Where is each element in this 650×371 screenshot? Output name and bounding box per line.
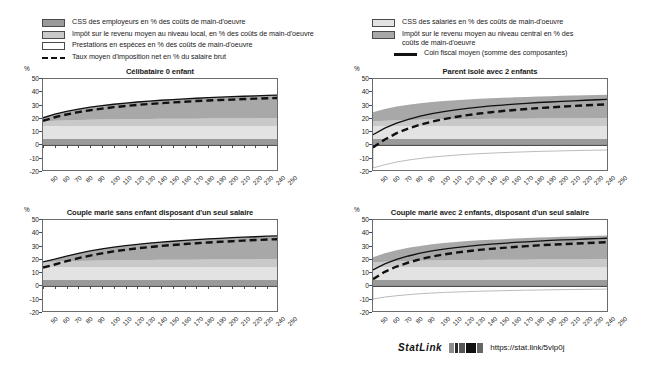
- x-axis-label: 60: [391, 315, 401, 325]
- x-axis-label: 150: [498, 315, 510, 327]
- y-axis-label: 20: [353, 255, 369, 262]
- y-axis-tick: [369, 312, 372, 313]
- y-axis-label: 10: [353, 269, 369, 276]
- y-axis-tick: [39, 246, 42, 247]
- x-axis-label: 70: [73, 174, 83, 184]
- x-axis-label: 110: [451, 174, 463, 186]
- y-axis-label: -10: [353, 154, 369, 161]
- legend-label: CSS des salariés en % des coûts de main-…: [402, 17, 563, 26]
- x-axis-label: 250: [616, 174, 628, 186]
- x-axis-label: 160: [180, 315, 192, 327]
- x-axis-label: 160: [510, 315, 522, 327]
- x-axis-label: 250: [286, 315, 298, 327]
- y-axis-tick: [369, 246, 372, 247]
- x-axis-label: 130: [144, 174, 156, 186]
- x-axis-label: 100: [109, 315, 121, 327]
- x-axis-label: 250: [616, 315, 628, 327]
- legend-label: Coin fiscal moyen (somme des composantes…: [424, 48, 567, 57]
- panel-title: Célibataire 0 enfant: [42, 67, 278, 76]
- x-axis-label: 130: [144, 315, 156, 327]
- legend-swatch-icon: [372, 19, 395, 27]
- x-axis-label: 200: [557, 315, 569, 327]
- x-axis-label: 190: [215, 315, 227, 327]
- x-axis-label: 140: [156, 315, 168, 327]
- legend-left: CSS des employeurs en % des coûts de mai…: [42, 17, 314, 63]
- y-axis-tick: [39, 144, 42, 145]
- legend-swatch-icon: [372, 31, 395, 39]
- x-axis-label: 240: [274, 174, 286, 186]
- y-axis-tick: [39, 131, 42, 132]
- y-axis-tick: [39, 118, 42, 119]
- y-axis-label: -20: [23, 309, 39, 316]
- series-canvas: [373, 79, 608, 171]
- x-axis-label: 130: [474, 174, 486, 186]
- legend-item: Coin fiscal moyen (somme des composantes…: [372, 48, 588, 58]
- x-axis-label: 90: [426, 174, 436, 184]
- legend-swatch-icon: [42, 19, 65, 27]
- solid-line-icon: [394, 50, 417, 58]
- x-axis-label: 70: [403, 315, 413, 325]
- legend-item: Impôt sur le revenu moyen au niveau loca…: [42, 29, 314, 39]
- y-axis-label: 10: [23, 269, 39, 276]
- x-axis-label: 80: [84, 174, 94, 184]
- y-axis-label: 10: [23, 128, 39, 135]
- y-axis-label: 30: [353, 242, 369, 249]
- panel-title: Parent isolé avec 2 enfants: [372, 67, 608, 76]
- y-axis-label: -20: [353, 168, 369, 175]
- y-axis-tick: [369, 259, 372, 260]
- x-axis-label: 50: [379, 174, 389, 184]
- legend-item: Taux moyen d'imposition net en % du sala…: [42, 52, 314, 62]
- x-axis-label: 180: [533, 315, 545, 327]
- y-axis-tick: [369, 158, 372, 159]
- x-axis-label: 50: [379, 315, 389, 325]
- area-series: [43, 280, 278, 287]
- plot-area: [372, 78, 608, 171]
- x-axis-label: 100: [439, 315, 451, 327]
- y-axis-label: 40: [23, 88, 39, 95]
- y-axis-label: 20: [23, 114, 39, 121]
- y-axis-label: 40: [23, 229, 39, 236]
- y-axis-label: -10: [353, 295, 369, 302]
- taxing-wages-figure: CSS des employeurs en % des coûts de mai…: [0, 0, 650, 371]
- barcode-icon: [449, 343, 483, 353]
- x-axis-label: 220: [251, 174, 263, 186]
- x-axis-label: 140: [156, 174, 168, 186]
- y-axis-label: 0: [23, 141, 39, 148]
- area-series: [373, 286, 608, 299]
- y-axis-label: 0: [353, 282, 369, 289]
- plot-area: [42, 219, 278, 312]
- x-axis-label: 100: [439, 174, 451, 186]
- y-axis-label: 10: [353, 128, 369, 135]
- legend-swatch-icon: [42, 42, 65, 50]
- y-axis-tick: [39, 91, 42, 92]
- panel-title: Couple marié avec 2 enfants, disposant d…: [372, 208, 608, 217]
- x-axis-label: 90: [96, 174, 106, 184]
- x-axis-label: 110: [121, 174, 133, 186]
- y-axis-tick: [369, 105, 372, 106]
- y-axis-label: 30: [23, 242, 39, 249]
- y-axis-label: 30: [353, 101, 369, 108]
- y-axis-label: 0: [23, 282, 39, 289]
- y-axis-label: -20: [353, 309, 369, 316]
- plot-area: [42, 78, 278, 171]
- y-axis-label: 20: [23, 255, 39, 262]
- x-axis-label: 110: [451, 315, 463, 327]
- legend-label: Taux moyen d'imposition net en % du sala…: [72, 52, 226, 61]
- x-axis-label: 200: [557, 174, 569, 186]
- x-axis-label: 220: [251, 315, 263, 327]
- y-axis-tick: [369, 118, 372, 119]
- x-axis-label: 60: [391, 174, 401, 184]
- statlink-url[interactable]: https://stat.link/5vlp0j: [490, 343, 564, 352]
- area-series: [373, 95, 608, 122]
- y-axis-label: 40: [353, 229, 369, 236]
- x-axis-label: 150: [168, 174, 180, 186]
- legend-label: Impôt sur le revenu moyen au niveau loca…: [72, 29, 314, 38]
- x-axis-label: 230: [592, 174, 604, 186]
- statlink-label: StatLink: [398, 342, 442, 353]
- y-axis-tick: [39, 299, 42, 300]
- y-axis-tick: [39, 219, 42, 220]
- y-axis-tick: [369, 144, 372, 145]
- y-axis-unit: %: [354, 65, 360, 72]
- dashed-line-icon: [42, 54, 65, 62]
- y-axis-tick: [39, 272, 42, 273]
